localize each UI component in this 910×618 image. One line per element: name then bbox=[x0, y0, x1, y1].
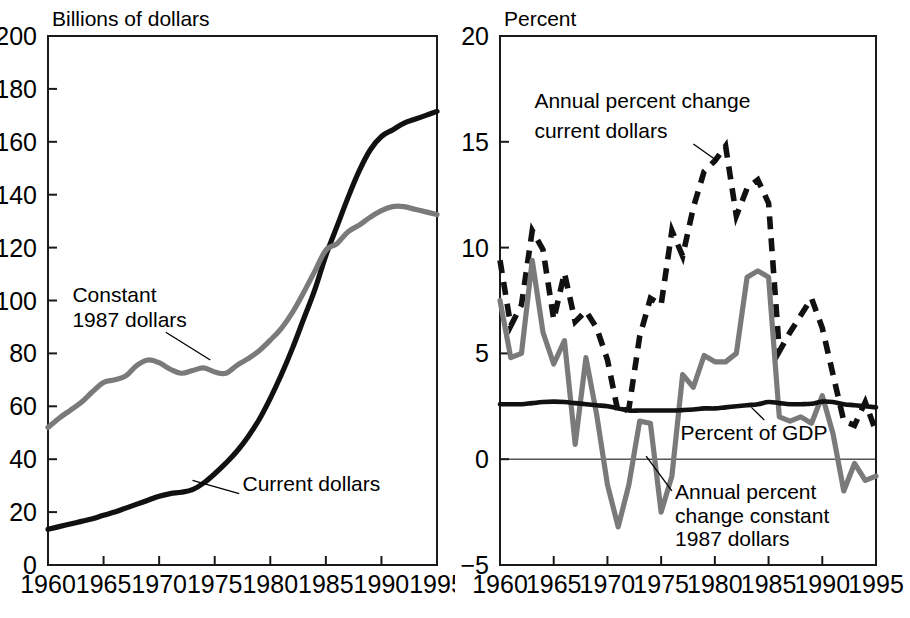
x-tick-label: 1960 bbox=[472, 570, 528, 598]
series-annotation-label: 1987 dollars bbox=[675, 527, 789, 550]
y-tick-label: 20 bbox=[9, 498, 37, 526]
y-tick-label: 40 bbox=[9, 445, 37, 473]
chart-panel-percent: Percent−50510152019601965197019751980198… bbox=[455, 0, 910, 618]
x-tick-label: 1975 bbox=[633, 570, 689, 598]
x-tick-label: 1995 bbox=[409, 570, 455, 598]
x-tick-label: 1965 bbox=[526, 570, 582, 598]
x-tick-label: 1980 bbox=[687, 570, 743, 598]
series-annotation-label: current dollars bbox=[534, 119, 667, 142]
series-annotation-label: change constant bbox=[675, 504, 829, 527]
series-annotation-label: Current dollars bbox=[243, 472, 381, 495]
x-tick-label: 1995 bbox=[848, 570, 904, 598]
series-annotation-label: Annual percent bbox=[675, 480, 816, 503]
y-tick-label: 0 bbox=[475, 445, 489, 473]
x-tick-label: 1970 bbox=[580, 570, 636, 598]
leader-line-constant-1987-dollars bbox=[166, 332, 210, 360]
x-tick-label: 1990 bbox=[354, 570, 410, 598]
y-tick-label: 80 bbox=[9, 339, 37, 367]
y-tick-label: 120 bbox=[0, 234, 37, 262]
y-tick-label: 5 bbox=[475, 339, 489, 367]
x-tick-label: 1965 bbox=[76, 570, 132, 598]
axis-title: Billions of dollars bbox=[52, 7, 210, 30]
y-tick-label: 160 bbox=[0, 128, 37, 156]
series-annotation-label: Percent of GDP bbox=[680, 421, 827, 444]
left-chart-svg: Billions of dollars020406080100120140160… bbox=[0, 0, 455, 618]
x-tick-label: 1980 bbox=[242, 570, 298, 598]
y-tick-label: 60 bbox=[9, 392, 37, 420]
series-annotation-label: Annual percent change bbox=[534, 89, 750, 112]
x-tick-label: 1975 bbox=[187, 570, 243, 598]
y-tick-label: 180 bbox=[0, 75, 37, 103]
series-line-annual-percent-change-current-dollars bbox=[500, 146, 876, 432]
series-annotation-label: 1987 dollars bbox=[72, 308, 186, 331]
y-tick-label: 140 bbox=[0, 181, 37, 209]
y-tick-label: 200 bbox=[0, 22, 37, 50]
figure-two-panel-chart: Billions of dollars020406080100120140160… bbox=[0, 0, 910, 618]
x-tick-label: 1985 bbox=[741, 570, 797, 598]
y-tick-label: 20 bbox=[461, 22, 489, 50]
axis-title: Percent bbox=[504, 7, 577, 30]
leader-line-current-dollars-pct bbox=[693, 144, 717, 161]
y-tick-label: 15 bbox=[461, 128, 489, 156]
x-tick-label: 1990 bbox=[794, 570, 850, 598]
x-tick-label: 1970 bbox=[131, 570, 187, 598]
x-tick-label: 1960 bbox=[20, 570, 76, 598]
series-annotation-label: Constant bbox=[72, 283, 156, 306]
y-tick-label: 100 bbox=[0, 287, 37, 315]
chart-panel-billions-of-dollars: Billions of dollars020406080100120140160… bbox=[0, 0, 455, 618]
x-tick-label: 1985 bbox=[298, 570, 354, 598]
y-tick-label: 10 bbox=[461, 234, 489, 262]
leader-line-percent-of-gdp bbox=[751, 407, 764, 420]
right-chart-svg: Percent−50510152019601965197019751980198… bbox=[455, 0, 910, 618]
